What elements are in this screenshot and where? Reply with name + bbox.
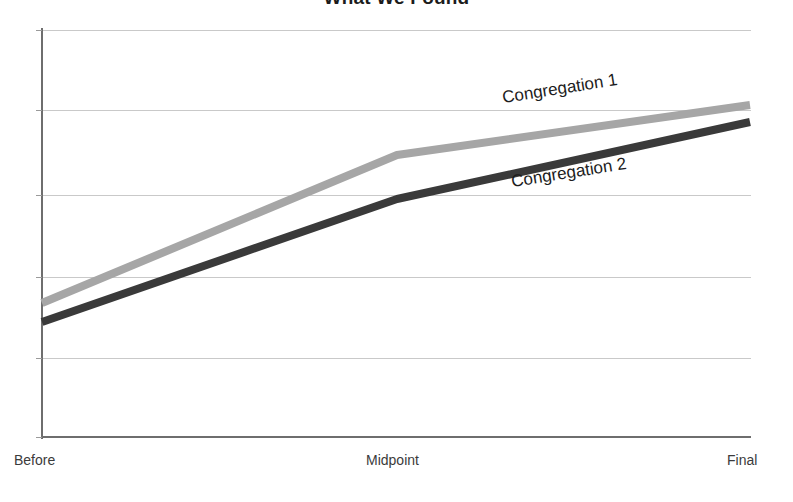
x-axis-label-midpoint: Midpoint [366, 452, 419, 468]
x-axis-line [42, 436, 751, 438]
y-axis-tick [36, 195, 42, 196]
y-axis-tick [36, 358, 42, 359]
x-axis-label-before: Before [14, 452, 55, 468]
x-axis-label-final: Final [727, 452, 757, 468]
gridline [42, 358, 751, 359]
y-axis-tick [36, 110, 42, 111]
y-axis-line [41, 28, 43, 439]
page-title: What We Found [0, 0, 793, 9]
y-axis-tick [36, 437, 42, 438]
gridline [42, 195, 751, 196]
gridline [42, 277, 751, 278]
chart-screenshot: What We Found Congregation 1 Congregatio… [0, 0, 793, 502]
y-axis-tick [36, 277, 42, 278]
gridline [42, 110, 751, 111]
y-axis-tick [36, 30, 42, 31]
plot-area [42, 30, 751, 437]
gridline [42, 30, 751, 31]
